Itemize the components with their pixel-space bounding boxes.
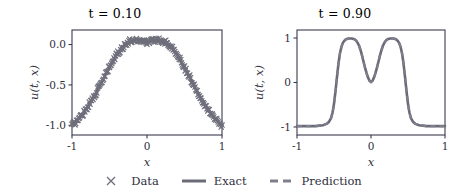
svg-text:0.0: 0.0: [49, 38, 66, 50]
legend-label-exact: Exact: [214, 174, 247, 188]
panel-left-plot: -1010.0-0.5-1.0xu(t, x): [0, 0, 230, 170]
legend-label-prediction: Prediction: [302, 174, 362, 188]
svg-text:-1: -1: [67, 140, 77, 152]
solid-line-icon: [181, 175, 207, 187]
svg-text:0: 0: [368, 140, 375, 152]
svg-text:u(t, x): u(t, x): [27, 65, 41, 100]
legend-entry-exact: Exact: [181, 174, 247, 188]
panel-t-0.90: t = 0.90 -10110-1xu(t, x): [230, 0, 460, 170]
legend-entry-prediction: Prediction: [269, 174, 362, 188]
figure-allen-cahn-snapshots: t = 0.10 -1010.0-0.5-1.0xu(t, x) t = 0.9…: [0, 0, 460, 194]
data-scatter-group: [69, 36, 224, 130]
svg-text:-1: -1: [292, 140, 302, 152]
legend-entry-data: Data: [98, 174, 159, 188]
dashed-line-icon: [269, 175, 295, 187]
svg-text:-0.5: -0.5: [46, 79, 66, 91]
svg-text:-1.0: -1.0: [46, 119, 66, 131]
x-marker-icon: [98, 175, 124, 187]
svg-text:u(t, x): u(t, x): [252, 65, 266, 100]
svg-text:1: 1: [284, 32, 291, 44]
svg-text:1: 1: [219, 140, 226, 152]
svg-text:0: 0: [144, 140, 151, 152]
svg-text:0: 0: [284, 76, 291, 88]
svg-text:x: x: [368, 155, 375, 169]
panel-t-0.10: t = 0.10 -1010.0-0.5-1.0xu(t, x): [0, 0, 230, 170]
legend-label-data: Data: [131, 174, 159, 188]
panel-right-plot: -10110-1xu(t, x): [230, 0, 460, 170]
svg-text:1: 1: [442, 140, 449, 152]
legend: Data Exact Prediction: [0, 170, 460, 192]
svg-text:x: x: [144, 155, 151, 169]
svg-text:-1: -1: [281, 121, 291, 133]
